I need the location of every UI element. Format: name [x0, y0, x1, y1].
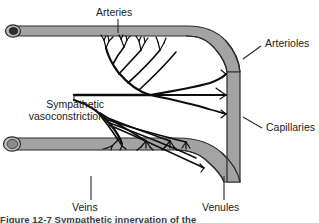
- nerve-artery-sub-branch-1: [113, 47, 124, 64]
- nerve-artery-sub-branch-2: [119, 50, 141, 74]
- nerve-branch-to-artery: [106, 48, 150, 95]
- vein-lumen: [7, 139, 18, 148]
- artery-lumen: [9, 28, 17, 35]
- nerve-branch-to-capillaries-upper: [150, 74, 226, 95]
- label-veins: Veins: [72, 202, 98, 214]
- nerve-branch-to-capillaries-lower: [150, 95, 226, 114]
- label-arterioles: Arterioles: [265, 38, 309, 50]
- label-sympathetic-vasoconstriction: Sympathetic vasoconstriction: [12, 99, 104, 122]
- label-capillaries: Capillaries: [266, 122, 315, 134]
- figure-microcirculation-diagram: Arteries Arterioles Capillaries Sympathe…: [0, 0, 319, 223]
- nerve-terminal-tuft-artery-2: [119, 35, 130, 47]
- leader-line-capillaries: [243, 117, 262, 128]
- nerve-terminal-tuft-venule: [200, 164, 204, 172]
- nerve-terminal-tuft-artery-1: [101, 35, 113, 48]
- nerve-terminal-tuft-artery-4: [156, 37, 166, 50]
- nerve-terminal-tuft-artery-3: [136, 36, 148, 50]
- nerve-artery-sub-branch-4: [139, 52, 176, 90]
- figure-caption: Figure 12-7 Sympathetic innervation of t…: [0, 214, 319, 223]
- label-sympathetic-line1: Sympathetic: [46, 98, 104, 110]
- label-arteries: Arteries: [96, 7, 132, 19]
- nerve-artery-sub-branch-3: [128, 50, 160, 83]
- nerve-terminal-tuft-capillary-2: [216, 88, 226, 99]
- label-venules: Venules: [202, 202, 239, 214]
- leader-line-arterioles: [243, 46, 261, 59]
- label-sympathetic-line2: vasoconstriction: [29, 110, 104, 122]
